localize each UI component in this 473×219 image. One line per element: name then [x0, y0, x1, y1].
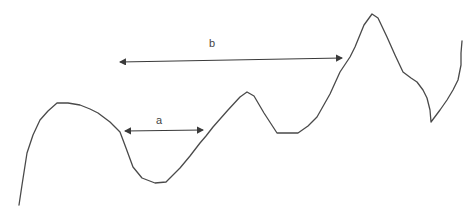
wave-curve — [19, 14, 462, 205]
arrow-label-a: a — [156, 115, 162, 126]
distance-arrow-b — [120, 58, 342, 62]
wave-diagram — [0, 0, 473, 219]
distance-arrow-a — [125, 130, 203, 131]
arrow-label-b: b — [209, 38, 215, 49]
